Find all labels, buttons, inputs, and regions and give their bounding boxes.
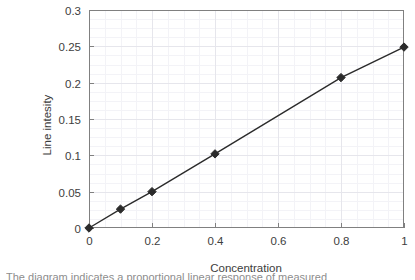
line-chart: 00.050.10.150.20.250.3 00.20.40.60.81 Co… bbox=[0, 0, 415, 280]
calibration-chart-figure: 00.050.10.150.20.250.3 00.20.40.60.81 Co… bbox=[0, 0, 415, 280]
y-tick-label: 0.25 bbox=[59, 41, 81, 53]
x-tick-label: 0.8 bbox=[334, 235, 350, 247]
y-tick-label: 0.05 bbox=[59, 187, 81, 199]
y-tick-label: 0.1 bbox=[65, 150, 81, 162]
x-tick-label: 0 bbox=[86, 235, 92, 247]
y-axis-tick-labels: 00.050.10.150.20.250.3 bbox=[59, 5, 81, 235]
x-tick-label: 0.4 bbox=[208, 235, 225, 247]
x-tick-label: 0.6 bbox=[271, 235, 287, 247]
x-tick-label: 0.2 bbox=[145, 235, 161, 247]
y-tick-label: 0.15 bbox=[59, 114, 81, 126]
y-tick-label: 0.3 bbox=[65, 5, 81, 17]
x-axis-tick-labels: 00.20.40.60.81 bbox=[86, 235, 407, 247]
y-tick-label: 0 bbox=[75, 223, 81, 235]
y-axis-title: Line intesity bbox=[41, 94, 53, 155]
y-tick-label: 0.2 bbox=[65, 78, 81, 90]
x-tick-label: 1 bbox=[401, 235, 407, 247]
clipped-caption-text: The diagram indicates a proportional lin… bbox=[6, 271, 409, 280]
